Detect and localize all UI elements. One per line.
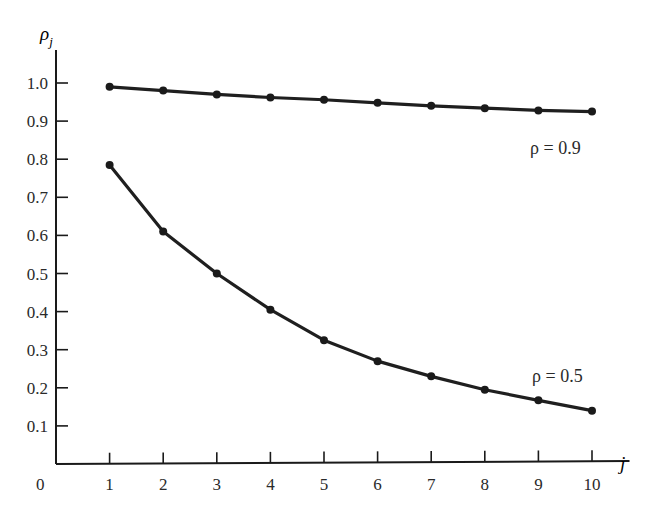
- y-tick-label: 0.6: [27, 226, 48, 245]
- data-point: [588, 108, 596, 116]
- series-label-rho-0.9: ρ = 0.9: [530, 138, 581, 158]
- x-tick-label: 8: [481, 475, 490, 494]
- y-tick-label: 1.0: [27, 74, 48, 93]
- series-line-rho-0.9: [110, 87, 592, 112]
- y-ticks: 0.10.20.30.40.50.60.70.80.91.0: [27, 74, 68, 436]
- x-tick-label: 4: [266, 475, 275, 494]
- data-point: [106, 161, 114, 169]
- autocorrelation-chart: 0.10.20.30.40.50.60.70.80.91.0 123456789…: [0, 0, 670, 511]
- x-tick-label: 6: [373, 475, 382, 494]
- y-tick-label: 0.1: [27, 417, 48, 436]
- x-tick-label: 3: [213, 475, 222, 494]
- x-tick-label: 7: [427, 475, 436, 494]
- series-line-rho-0.5: [110, 165, 592, 411]
- data-point: [374, 357, 382, 365]
- x-tick-label: 2: [159, 475, 168, 494]
- data-point: [481, 104, 489, 112]
- data-point: [159, 228, 167, 236]
- x-tick-label: 1: [105, 475, 114, 494]
- x-axis-line: [56, 461, 630, 464]
- series-lines: [106, 83, 596, 415]
- y-axis-label: ρj: [39, 23, 53, 49]
- data-point: [213, 90, 221, 98]
- y-tick-label: 0.2: [27, 379, 48, 398]
- x-tick-label: 9: [534, 475, 543, 494]
- data-point: [374, 99, 382, 107]
- y-tick-label: 0.4: [27, 303, 49, 322]
- y-tick-label: 0.9: [27, 112, 48, 131]
- y-tick-label: 0.7: [27, 188, 49, 207]
- data-point: [159, 87, 167, 95]
- series-label-rho-0.5: ρ = 0.5: [532, 366, 583, 386]
- data-point: [534, 396, 542, 404]
- data-point: [266, 93, 274, 101]
- x-axis-label: j: [617, 453, 625, 474]
- data-point: [266, 306, 274, 314]
- origin-label: 0: [36, 475, 45, 494]
- y-tick-label: 0.3: [27, 341, 48, 360]
- x-tick-label: 5: [320, 475, 329, 494]
- data-point: [534, 106, 542, 114]
- data-point: [588, 407, 596, 415]
- y-tick-label: 0.8: [27, 150, 48, 169]
- y-tick-label: 0.5: [27, 265, 48, 284]
- data-point: [106, 83, 114, 91]
- data-point: [481, 386, 489, 394]
- data-point: [427, 102, 435, 110]
- x-tick-label: 10: [584, 475, 601, 494]
- data-point: [427, 372, 435, 380]
- data-point: [213, 270, 221, 278]
- x-ticks: 12345678910: [105, 450, 600, 494]
- data-point: [320, 96, 328, 104]
- data-point: [320, 336, 328, 344]
